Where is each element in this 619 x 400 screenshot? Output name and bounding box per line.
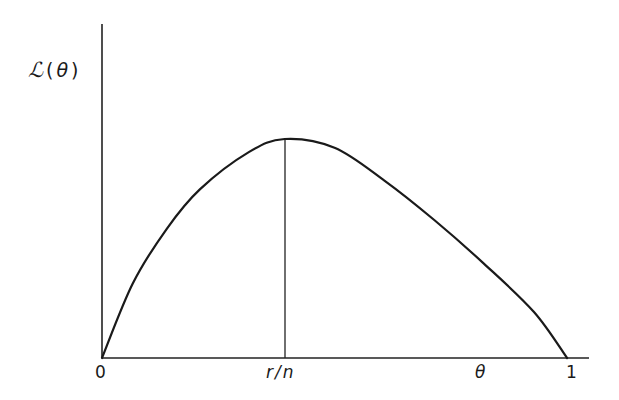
likelihood-figure: ℒ(θ) 0 r/n θ 1 <box>0 0 619 400</box>
plot-area <box>0 0 619 400</box>
likelihood-curve <box>102 139 567 358</box>
x-tick-mle: r/n <box>266 362 296 382</box>
script-L-symbol: ℒ <box>28 58 46 82</box>
x-axis-label: θ <box>475 362 485 382</box>
x-tick-origin: 0 <box>95 362 106 382</box>
y-axis-label: ℒ(θ) <box>28 58 81 82</box>
x-tick-one: 1 <box>566 362 577 382</box>
